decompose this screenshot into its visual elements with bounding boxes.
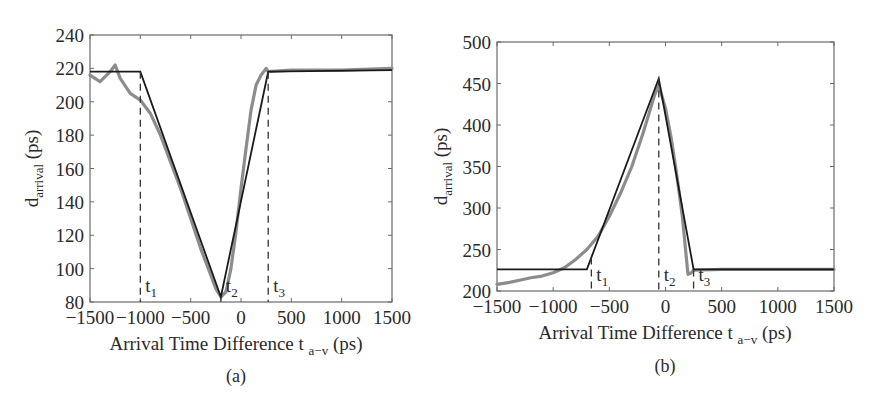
figure-canvas: −1500−1000−50005001000150080100120140160… <box>0 0 878 409</box>
y-tick-label: 400 <box>463 115 492 136</box>
y-axis-label: darrival (ps) <box>21 130 46 208</box>
x-tick-label: −500 <box>590 296 629 317</box>
y-tick-label: 180 <box>56 125 85 146</box>
x-axis-label: Arrival Time Difference t a−v (ps) <box>538 322 791 347</box>
marker-label-t2: t2 <box>226 275 238 300</box>
x-tick-labels: −1500−1000−500050010001500 <box>66 307 411 328</box>
marker-label-t3: t3 <box>699 264 711 289</box>
x-tick-label: 1500 <box>815 296 853 317</box>
y-tick-label: 200 <box>463 281 492 302</box>
measured-series <box>90 65 392 297</box>
y-tick-label: 250 <box>463 240 492 261</box>
x-tick-label: 0 <box>661 296 671 317</box>
y-axis-label: darrival (ps) <box>430 128 455 206</box>
x-tick-label: 0 <box>236 307 246 328</box>
x-tick-label: 1000 <box>759 296 797 317</box>
y-tick-label: 140 <box>56 192 85 213</box>
marker-label-t3: t3 <box>273 275 285 300</box>
x-tick-label: 500 <box>707 296 736 317</box>
x-tick-label: −1000 <box>529 296 578 317</box>
panel-label: (b) <box>655 356 676 377</box>
x-axis-label: Arrival Time Difference t a−v (ps) <box>109 333 362 358</box>
plot-frame <box>497 42 834 291</box>
y-tick-label: 240 <box>56 25 85 46</box>
x-tick-label: 1500 <box>373 307 411 328</box>
y-tick-labels: 80100120140160180200220240 <box>56 25 85 313</box>
marker-label-t1: t1 <box>145 275 157 300</box>
y-tick-label: 80 <box>65 292 84 313</box>
y-tick-label: 160 <box>56 159 85 180</box>
y-tick-label: 220 <box>56 58 85 79</box>
y-tick-label: 350 <box>463 157 492 178</box>
y-tick-label: 200 <box>56 92 85 113</box>
x-tick-label: −1000 <box>116 307 165 328</box>
x-tick-labels: −1500−1000−500050010001500 <box>473 296 853 317</box>
chart-panel-b: −1500−1000−50005001000150020025030035040… <box>430 32 853 377</box>
panel-label: (a) <box>226 366 246 387</box>
y-tick-label: 450 <box>463 74 492 95</box>
marker-label-t1: t1 <box>596 264 608 289</box>
x-tick-label: 500 <box>277 307 306 328</box>
plot-frame <box>90 35 392 302</box>
y-tick-label: 120 <box>56 225 85 246</box>
y-tick-label: 500 <box>463 32 492 53</box>
chart-panel-a: −1500−1000−50005001000150080100120140160… <box>21 25 411 387</box>
marker-label-t2: t2 <box>664 264 676 289</box>
figure: −1500−1000−50005001000150080100120140160… <box>0 0 878 409</box>
y-tick-label: 100 <box>56 259 85 280</box>
x-tick-label: −500 <box>171 307 210 328</box>
y-tick-label: 300 <box>463 198 492 219</box>
x-tick-label: 1000 <box>323 307 361 328</box>
y-tick-labels: 200250300350400450500 <box>463 32 492 302</box>
